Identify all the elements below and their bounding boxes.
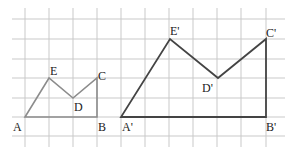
- vertex-label: D: [74, 100, 83, 114]
- dilation-diagram: ABCDE A'B'C'D'E': [0, 0, 288, 154]
- vertex-label: A: [13, 120, 22, 134]
- vertex-label: E: [50, 64, 57, 78]
- vertex-label: E': [170, 24, 180, 38]
- vertex-label: B': [266, 120, 276, 134]
- vertex-label: C: [98, 69, 106, 83]
- vertex-label: B: [98, 120, 106, 134]
- vertex-label: D': [202, 81, 213, 95]
- small-figure-labels: ABCDE: [13, 64, 106, 134]
- vertex-label: A': [122, 120, 133, 134]
- vertex-label: C': [266, 26, 276, 40]
